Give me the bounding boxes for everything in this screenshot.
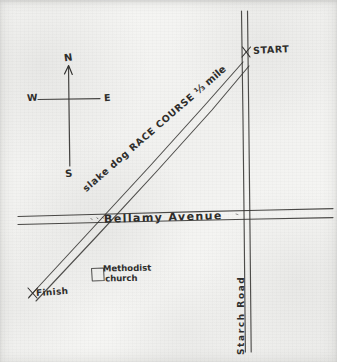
start-label: START xyxy=(253,43,290,56)
start-marker-x xyxy=(242,47,251,57)
compass-east-label: E xyxy=(104,92,111,103)
map-drawing-canvas xyxy=(0,0,337,362)
methodist-church-label-line2: church xyxy=(103,273,151,284)
compass-north-label: N xyxy=(63,51,73,63)
compass-west-label: W xyxy=(27,92,38,104)
starch-road-label: Starch Road xyxy=(236,276,246,355)
methodist-church-label-line1: Methodist xyxy=(103,263,151,274)
methodist-church-label: Methodist church xyxy=(103,263,152,284)
compass-rose xyxy=(38,66,100,167)
hand-drawn-map-page: START Finish Bellamy Avenue slake dog RA… xyxy=(0,0,337,362)
compass-south-label: S xyxy=(64,168,72,180)
